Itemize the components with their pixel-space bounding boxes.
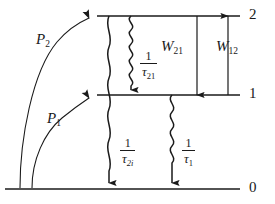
transition-arrows: [197, 16, 228, 95]
tau-1-arrow: [170, 95, 173, 183]
tau-21-arrow: [129, 16, 132, 90]
level-label-0: 0: [249, 180, 257, 195]
pump-2-arrow: [20, 18, 89, 188]
w21-label: W21: [161, 39, 183, 54]
tau-21-tau: τ: [142, 64, 147, 79]
tau-2i-subscript: 2i: [127, 158, 134, 168]
level-label-1: 1: [249, 86, 257, 101]
tau-1-denominator: τ1: [182, 152, 195, 166]
pump-2-subscript: 2: [45, 39, 50, 49]
pump-2-symbol: P: [36, 31, 45, 47]
tau-2i-denominator: τ2i: [120, 152, 135, 166]
pump-1-symbol: P: [47, 110, 56, 126]
tau-2i-tau: τ: [122, 151, 127, 166]
tau-1-numerator: 1: [182, 137, 195, 150]
tau-2i-numerator: 1: [120, 137, 135, 150]
energy-level-diagram: 2 1 0 P2 P1 W21 W12 1 τ21 1 τ2i 1 τ1: [0, 0, 275, 204]
w21-symbol: W: [161, 38, 174, 54]
tau-21-subscript: 21: [147, 71, 156, 81]
w12-label: W12: [216, 39, 238, 54]
tau-21-fraction: 1 τ21: [140, 50, 157, 79]
w21-subscript: 21: [174, 46, 184, 56]
tau-2i-arrow: [108, 16, 111, 183]
tau-1-fraction: 1 τ1: [182, 137, 195, 166]
pump-1-label: P1: [47, 111, 61, 126]
w12-subscript: 12: [229, 46, 239, 56]
pump-1-subscript: 1: [56, 118, 61, 128]
tau-1-label: 1 τ1: [182, 137, 195, 166]
tau-2i-fraction: 1 τ2i: [120, 137, 135, 166]
level-label-2: 2: [249, 7, 257, 22]
pump-arrows: [20, 18, 89, 188]
pump-2-label: P2: [36, 32, 50, 47]
tau-1-subscript: 1: [189, 158, 193, 168]
tau-21-denominator: τ21: [140, 65, 157, 79]
w12-symbol: W: [216, 38, 229, 54]
tau-21-numerator: 1: [140, 50, 157, 63]
tau-2i-label: 1 τ2i: [120, 137, 135, 166]
tau-1-tau: τ: [184, 151, 189, 166]
tau-21-label: 1 τ21: [140, 50, 157, 79]
